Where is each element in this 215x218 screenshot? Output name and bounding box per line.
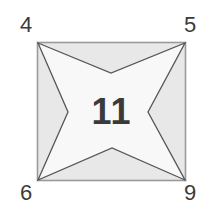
corner-label-bottom-left: 6 [20, 182, 32, 204]
star-in-square-graphic [0, 0, 215, 218]
corner-label-top-right: 5 [184, 14, 196, 36]
corner-label-bottom-right: 9 [184, 182, 196, 204]
corner-label-top-left: 4 [20, 14, 32, 36]
figure-canvas: 4 5 6 9 11 [0, 0, 215, 218]
